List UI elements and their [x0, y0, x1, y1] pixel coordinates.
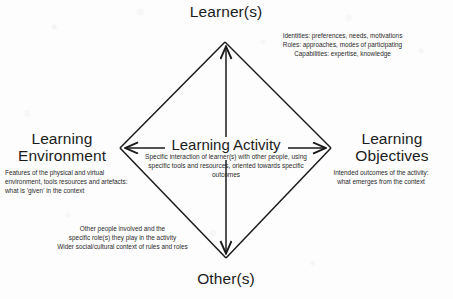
annotation-learner: Identities: preferences, needs, motivati…	[260, 31, 425, 58]
annotation-others: Other people involved and the specific r…	[20, 224, 225, 251]
node-label-learner: Learner(s)	[148, 3, 304, 20]
diagram-canvas: Learner(s) Identities: preferences, need…	[0, 0, 453, 299]
node-label-learning-objectives: Learning Objectives	[336, 130, 448, 165]
diamond-edge-top-left	[120, 42, 225, 148]
annotation-learning-objectives: Intended outcomes of the activity: what …	[314, 168, 448, 186]
annotation-learning-activity: Specific interaction of learner(s) with …	[134, 152, 318, 180]
node-label-others: Other(s)	[148, 270, 304, 287]
node-label-learning-environment: Learning Environment	[6, 130, 118, 165]
node-label-learning-activity: Learning Activity	[136, 136, 316, 153]
annotation-learning-environment: Features of the physical and virtual env…	[5, 168, 137, 195]
